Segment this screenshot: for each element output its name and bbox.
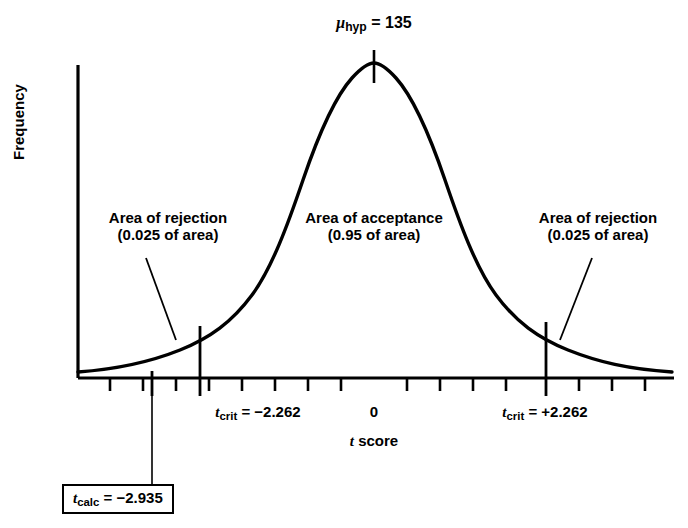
- plot-canvas: [0, 0, 688, 528]
- right-rejection-line1: Area of rejection: [539, 209, 657, 226]
- acceptance-label: Area of acceptance (0.95 of area): [305, 209, 443, 243]
- left-rejection-label: Area of rejection (0.025 of area): [109, 209, 227, 243]
- zero-tick-label: 0: [370, 403, 378, 420]
- x-axis-title: t score: [350, 432, 398, 450]
- right-rejection-leader-line: [560, 258, 592, 340]
- left-rejection-line2: (0.025 of area): [109, 226, 227, 243]
- y-axis-title: Frequency: [10, 132, 27, 160]
- t-crit-upper-label: tcrit = +2.262: [502, 403, 587, 423]
- t-crit-upper-sub: crit: [507, 410, 525, 422]
- x-axis-ticks: [110, 378, 645, 391]
- x-axis-title-rest: score: [354, 432, 398, 449]
- acceptance-line1: Area of acceptance: [305, 209, 443, 226]
- mu-value: = 135: [367, 14, 412, 31]
- right-rejection-line2: (0.025 of area): [539, 226, 657, 243]
- left-rejection-line1: Area of rejection: [109, 209, 227, 226]
- t-distribution-figure: Frequency μhyp = 135 Area of rejection (…: [0, 0, 688, 528]
- mu-subscript: hyp: [345, 20, 367, 34]
- t-crit-upper-value: = +2.262: [524, 403, 587, 420]
- t-calc-callout-box: tcalc = −2.935: [62, 484, 174, 514]
- t-crit-lower-sub: crit: [220, 410, 238, 422]
- mu-hyp-label: μhyp = 135: [336, 14, 411, 35]
- mu-symbol: μ: [336, 14, 345, 31]
- t-crit-lower-value: = −2.262: [237, 403, 300, 420]
- right-rejection-label: Area of rejection (0.025 of area): [539, 209, 657, 243]
- acceptance-line2: (0.95 of area): [305, 226, 443, 243]
- left-rejection-leader-line: [146, 258, 176, 340]
- t-calc-value: = −2.935: [99, 489, 162, 506]
- t-crit-lower-label: tcrit = −2.262: [215, 403, 300, 423]
- t-calc-sub: calc: [77, 496, 99, 508]
